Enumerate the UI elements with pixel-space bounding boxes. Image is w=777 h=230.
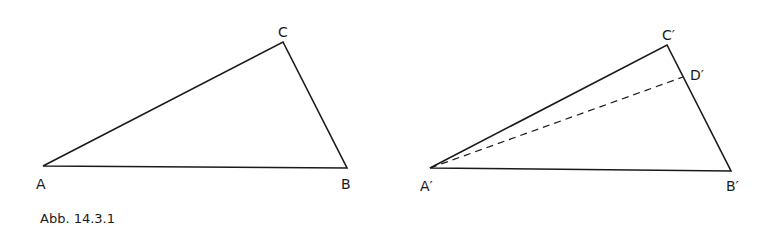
triangle-prime-outline [430, 45, 731, 171]
vertex-label-c-prime: C′ [662, 27, 675, 43]
vertex-label-b-prime: B′ [726, 178, 739, 194]
diagram-canvas: C A B C′ D′ A′ B′ Abb. 14.3.1 [0, 0, 777, 230]
triangle-a-prime-b-prime-c-prime: C′ D′ A′ B′ [420, 27, 739, 194]
point-label-d-prime: D′ [690, 67, 704, 83]
vertex-label-a-prime: A′ [420, 178, 433, 194]
triangle-abc: C A B [36, 24, 351, 192]
vertex-label-b: B [341, 176, 351, 192]
vertex-label-a: A [36, 176, 46, 192]
dashed-segment-a-prime-d-prime [430, 77, 683, 168]
figure-caption: Abb. 14.3.1 [40, 211, 115, 226]
vertex-label-c: C [278, 24, 288, 40]
triangle-abc-outline [43, 42, 347, 168]
